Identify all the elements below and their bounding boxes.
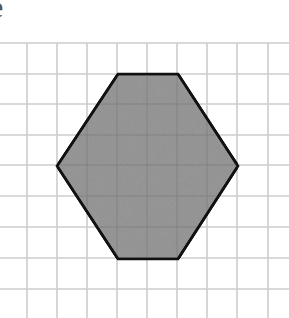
grid-diagram xyxy=(0,0,289,318)
